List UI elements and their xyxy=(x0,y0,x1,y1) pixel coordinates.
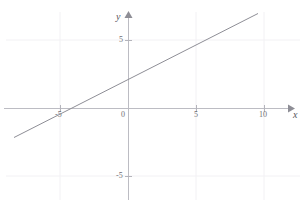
data-line-series-1 xyxy=(14,14,258,138)
x-tick-label-0: 0 xyxy=(121,110,125,119)
y-axis-arrowhead xyxy=(125,11,133,18)
x-axis-label: x xyxy=(293,109,297,120)
x-tick-label-neg5: -5 xyxy=(55,110,62,119)
x-tick-label-5: 5 xyxy=(194,110,198,119)
y-tick-label-neg5: -5 xyxy=(116,171,123,180)
y-tick-label-5: 5 xyxy=(119,35,123,44)
gridlines xyxy=(6,12,300,200)
axes xyxy=(4,11,295,200)
cartesian-plot: -5 0 5 10 5 -5 y x xyxy=(0,0,306,204)
x-tick-label-10: 10 xyxy=(259,110,267,119)
y-axis-label: y xyxy=(116,11,120,22)
plot-canvas xyxy=(0,0,306,204)
